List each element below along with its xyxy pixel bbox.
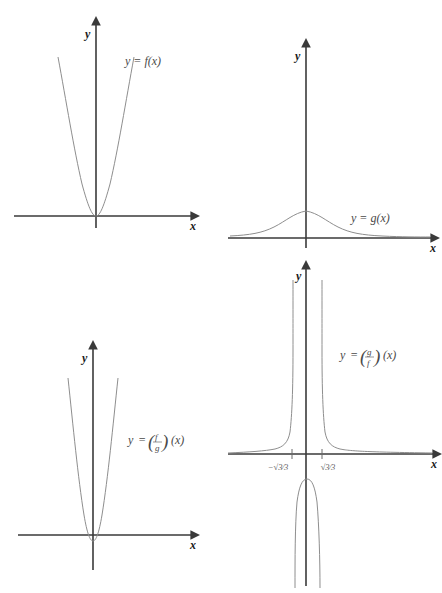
curve-label-g-over-f-arg: (x) [383,348,396,362]
panel-g: y x y = g(x) [228,46,436,255]
y-axis-label-panel-g: y [293,49,301,63]
curve-label-g-over-f-eq: = [350,348,358,362]
paren-close-g-over-f: ) [373,346,380,368]
panel-f-over-g: y x y = ( f g ) (x) [18,348,196,570]
curve-g-over-f-middle-branch [295,479,320,588]
curve-label-f-over-g-numerator: f [155,432,159,442]
tick-label-left-panel-g-over-f: −√3⁄3 [268,462,288,472]
curve-label-f-over-g-denominator: g [155,443,160,453]
curve-label-f-over-g: y = ( f g ) (x) [127,431,184,453]
curve-label-f-over-g-eq: = [138,433,146,447]
curve-g [230,211,430,237]
curve-g-over-f-left-branch [228,280,293,453]
x-axis-label-panel-g-over-f: x [430,457,437,471]
curve-label-f-over-g-arg: (x) [171,433,184,447]
curve-label-g-over-f-numerator: g [367,347,372,357]
curve-label-g-over-f: y = ( g f ) (x) [339,346,396,368]
x-axis-label-panel-f-over-g: x [189,538,196,552]
curve-label-g-over-f-denominator: f [367,358,371,368]
y-axis-label-panel-g-over-f: y [294,269,302,283]
paren-close-f-over-g: ) [161,431,168,453]
curve-label-f: y = f(x) [124,54,161,68]
y-axis-label-panel-f-over-g: y [80,351,88,365]
x-axis-label-panel-f: x [189,219,196,233]
curve-label-f-over-g-lhs: y [127,433,134,447]
panel-f: y x y = f(x) [14,24,196,233]
curve-label-g-over-f-lhs: y [339,348,346,362]
x-axis-label-panel-g: x [429,241,436,255]
panel-g-over-f: −√3⁄3 √3⁄3 y x y = ( g f ) (x) [228,268,437,588]
tick-label-right-panel-g-over-f: √3⁄3 [321,462,336,472]
four-panel-function-figure: y x y = f(x) y x y = g(x) y x y = ( f g … [0,0,442,593]
curve-label-g: y = g(x) [350,211,390,225]
y-axis-label-panel-f: y [83,27,91,41]
